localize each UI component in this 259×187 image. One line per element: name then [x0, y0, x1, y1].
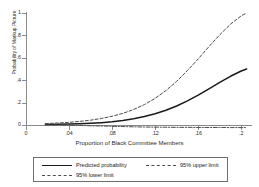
legend-label: 95% lower limit	[76, 171, 114, 180]
series-line	[45, 125, 246, 128]
legend-label: Predicted probability	[76, 161, 127, 170]
legend-label: 95% upper limit	[180, 161, 219, 170]
series-line	[45, 13, 246, 124]
legend-key-dashdot-icon	[42, 175, 72, 176]
series-line	[45, 69, 246, 125]
chart-legend: Predicted probability95% upper limit95% …	[33, 157, 228, 182]
chart-figure: 0.2.4.6.81 0.04.08.12.16.2 Probability o…	[0, 0, 259, 187]
legend-key-solid-icon	[42, 165, 72, 166]
legend-key-dashed-icon	[146, 165, 176, 166]
